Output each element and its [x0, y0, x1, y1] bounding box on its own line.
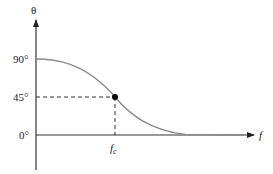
fc-label: fc: [110, 142, 117, 156]
tick-0-label: 0°: [19, 129, 29, 141]
fc-marker-dot: [112, 94, 118, 100]
tick-90-label: 90°: [13, 53, 28, 65]
y-axis-label: θ: [31, 4, 36, 16]
tick-45-label: 45°: [13, 91, 28, 103]
phase-response-chart: θ 90° 45° 0° f fc: [0, 0, 273, 174]
x-axis-label: f: [259, 129, 264, 141]
chart-canvas: θ 90° 45° 0° f fc: [0, 0, 273, 174]
